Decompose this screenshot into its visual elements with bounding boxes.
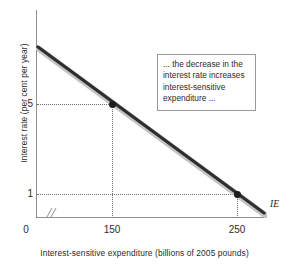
data-point-marker [234,191,241,198]
guide-line-rate-1 [37,194,237,195]
axis-break-icon [44,207,58,219]
annotation-callout-box: ... the decrease in the interest rate in… [157,54,256,111]
chart-figure: Interest rate (per cent per year) 5 1 0 … [0,0,289,267]
x-axis-label: Interest-sensitive expenditure (billions… [0,248,289,258]
y-tick-label-5: 5 [20,98,33,109]
annotation-line: expenditure ... [163,93,250,104]
x-axis-line [36,217,267,218]
y-tick-label-1: 1 [20,188,33,199]
y-axis-line [36,10,37,218]
data-point-marker [109,101,116,108]
x-tick-label-150: 150 [92,224,132,235]
x-tick-label-250: 250 [217,224,257,235]
ie-curve [36,10,267,218]
annotation-line: interest rate increases [163,70,250,81]
x-tick-label-0: 0 [6,224,46,235]
guide-line-expenditure-250 [237,194,238,218]
annotation-line: ... the decrease in the [163,59,250,70]
ie-curve-label: IE [270,199,279,209]
guide-line-expenditure-150 [112,104,113,218]
guide-line-rate-5 [37,104,113,105]
annotation-line: interest-sensitive [163,82,250,93]
